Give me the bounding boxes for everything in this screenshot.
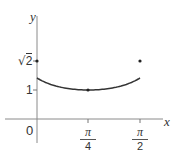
origin-label: 0: [26, 124, 33, 137]
xtick-label-pi2: π 2: [132, 127, 148, 152]
x-axis-label: x: [164, 115, 170, 128]
denominator: 4: [80, 140, 96, 152]
ytick-label-sqrt2: √2: [18, 55, 32, 67]
y-axis-label: y: [30, 10, 36, 23]
xtick-label-pi4: π 4: [80, 127, 96, 152]
denominator: 2: [132, 140, 148, 152]
sqrt-radicand: 2: [26, 53, 33, 68]
curve: [37, 78, 140, 90]
ytick-label-1: 1: [26, 84, 33, 96]
point-end: [138, 59, 141, 62]
point-min: [86, 88, 89, 91]
pi-numerator: π: [132, 127, 148, 140]
point-start: [35, 59, 38, 62]
sqrt-icon: √: [18, 54, 26, 68]
pi-numerator: π: [80, 127, 96, 140]
